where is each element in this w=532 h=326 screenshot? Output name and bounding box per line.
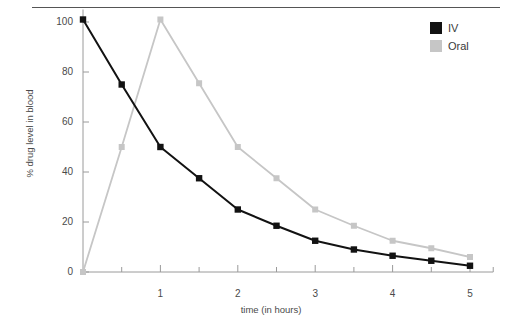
data-point-marker (467, 263, 473, 269)
data-point-marker (157, 144, 163, 150)
series-oral (80, 17, 473, 276)
data-point-marker (312, 207, 318, 213)
chart-figure: IV Oral % drug level in blood time (in h… (0, 0, 532, 326)
data-point-marker (274, 175, 280, 181)
data-point-marker (389, 253, 395, 259)
data-point-marker (312, 238, 318, 244)
data-point-marker (196, 175, 202, 181)
data-point-marker (157, 17, 163, 23)
data-point-marker (467, 254, 473, 260)
data-point-marker (428, 245, 434, 251)
data-point-marker (351, 246, 357, 252)
data-point-marker (119, 81, 125, 87)
plot-area (0, 0, 532, 326)
data-point-marker (196, 80, 202, 86)
data-point-marker (119, 144, 125, 150)
data-point-marker (80, 269, 86, 275)
data-point-marker (390, 238, 396, 244)
series-iv (80, 16, 473, 269)
series-line-oral (83, 20, 470, 273)
data-point-marker (428, 258, 434, 264)
data-point-marker (80, 16, 86, 22)
data-point-marker (351, 223, 357, 229)
data-point-marker (235, 206, 241, 212)
data-point-marker (273, 223, 279, 229)
data-point-marker (235, 144, 241, 150)
